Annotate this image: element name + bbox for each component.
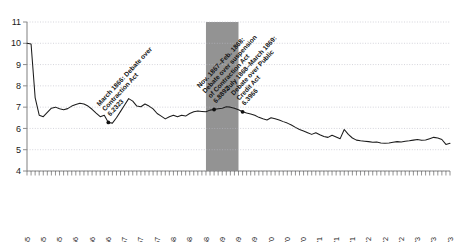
x-axis-label: 05/31/1872	[381, 237, 390, 242]
x-axis-label: 05/31/1869	[234, 237, 243, 242]
x-axis-label: 01/31/1872	[364, 237, 373, 242]
x-axis-label: 09/30/1865	[55, 237, 64, 242]
x-axis-label: 05/31/1866	[88, 237, 97, 242]
x-axis-label: 05/31/1865	[39, 237, 48, 242]
x-axis-tick-group: 05/31/1865	[39, 237, 48, 242]
x-axis-tick-group: 05/31/1871	[332, 237, 341, 242]
y-axis-label: 9	[16, 60, 21, 70]
x-axis-tick-group: 05/31/1870	[283, 237, 292, 242]
x-axis-tick-group: 09/29/1866	[104, 237, 113, 242]
x-axis-tick-group: 01/31/1873	[413, 237, 422, 242]
annotation-marker-2	[212, 108, 216, 112]
x-axis-tick-group: 09/30/1865	[55, 237, 64, 242]
annotation-marker-3	[241, 110, 245, 114]
x-axis-tick-group: 09/30/1867	[153, 237, 162, 242]
x-axis-tick-group: 09/30/1868	[202, 237, 211, 242]
y-axis-label: 10	[11, 38, 21, 48]
x-axis-label: 01/31/1865	[23, 237, 32, 242]
chart-container: 456789101101/31/186505/31/186509/30/1865…	[0, 0, 454, 242]
x-axis-tick-group: 05/31/1872	[381, 237, 390, 242]
x-axis-tick-group: 05/30/1868	[185, 237, 194, 242]
x-axis-label: 05/31/1870	[283, 237, 292, 242]
x-axis-label: 01/31/1866	[71, 237, 80, 242]
x-axis-tick-group: 05/31/1867	[136, 237, 145, 242]
x-axis-tick-group: 09/30/1871	[348, 237, 357, 242]
x-axis-label: 09/29/1866	[104, 237, 113, 242]
x-axis-label: 09/29/1870	[299, 237, 308, 242]
x-axis-tick-group: 09/29/1870	[299, 237, 308, 242]
x-axis-tick-group: 09/30/1869	[250, 237, 259, 242]
x-axis-tick-group: 01/31/1868	[169, 237, 178, 242]
x-axis-label: 01/31/1868	[169, 237, 178, 242]
y-axis-label: 7	[16, 102, 21, 112]
annotation-group-1: March 1866: Debate overContraction Act6.…	[95, 45, 164, 117]
x-axis-label: 09/30/1867	[153, 237, 162, 242]
x-axis-tick-group: 09/30/1873	[446, 237, 454, 242]
x-axis-tick-group: 01/31/1865	[23, 237, 32, 242]
annotation-marker-1	[106, 121, 110, 125]
x-axis-tick-group: 01/30/1869	[218, 237, 227, 242]
x-axis-tick-group: 01/31/1872	[364, 237, 373, 242]
x-axis-label: 09/30/1868	[202, 237, 211, 242]
x-axis-tick-group: 01/31/1870	[267, 237, 276, 242]
x-axis-label: 05/31/1867	[136, 237, 145, 242]
x-axis-tick-group: 01/31/1866	[71, 237, 80, 242]
x-axis-label: 09/30/1869	[250, 237, 259, 242]
x-axis-label: 01/31/1871	[315, 237, 324, 242]
x-axis-tick-group: 01/31/1867	[120, 237, 129, 242]
x-axis-label: 09/30/1873	[446, 237, 454, 242]
y-axis-label: 11	[12, 17, 21, 27]
y-axis-label: 8	[16, 81, 21, 91]
y-axis-label: 6	[16, 124, 21, 134]
x-axis-label: 05/30/1868	[185, 237, 194, 242]
annotation-text-1: March 1866: Debate over	[95, 45, 153, 107]
x-axis-label: 01/31/1873	[413, 237, 422, 242]
x-axis-tick-group: 09/30/1872	[397, 237, 406, 242]
x-axis-tick-group: 01/31/1871	[315, 237, 324, 242]
x-axis-label: 05/31/1871	[332, 237, 341, 242]
y-axis-label: 5	[16, 145, 21, 155]
x-axis-label: 01/30/1869	[218, 237, 227, 242]
x-axis-label: 09/30/1872	[397, 237, 406, 242]
x-axis-tick-group: 05/31/1873	[429, 237, 438, 242]
y-axis-label: 4	[16, 166, 21, 176]
x-axis-label: 01/31/1867	[120, 237, 129, 242]
x-axis-label: 09/30/1871	[348, 237, 357, 242]
x-axis-tick-group: 05/31/1866	[88, 237, 97, 242]
x-axis-tick-group: 05/31/1869	[234, 237, 243, 242]
line-chart: 456789101101/31/186505/31/186509/30/1865…	[0, 0, 454, 242]
x-axis-label: 01/31/1870	[267, 237, 276, 242]
x-axis-label: 05/31/1873	[429, 237, 438, 242]
